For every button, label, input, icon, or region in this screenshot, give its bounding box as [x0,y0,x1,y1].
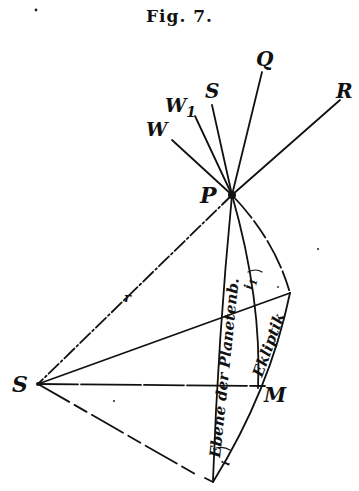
label-Q: Q [256,47,274,71]
label-M: M [263,383,287,407]
ray-PR [232,100,340,195]
label-R: R [335,79,353,103]
speck [317,248,319,250]
label-r: r [124,290,132,305]
arc-outer [232,195,290,293]
label-ecliptic: Ekliptik [249,311,289,381]
label-i1: i1 [241,276,259,291]
line-S-bottom [38,384,195,474]
speck [113,400,115,402]
label-W: W [146,118,169,140]
speck [35,9,38,12]
speck [277,286,279,288]
label-S-left: S [12,371,28,397]
label-plane-of-orbit: Ebene der Planetenb. [206,277,243,459]
label-S-top: S [205,79,219,103]
point-S [36,382,40,386]
bottom-tick [205,478,213,482]
geometry-diagram: Q R S W1 W P S M r i1 i Ebene der Planet… [0,0,359,491]
line-r [38,195,232,384]
ray-PQ [232,72,262,195]
label-P: P [199,182,218,208]
label-W1: W1 [165,94,196,120]
point-P [228,191,236,199]
